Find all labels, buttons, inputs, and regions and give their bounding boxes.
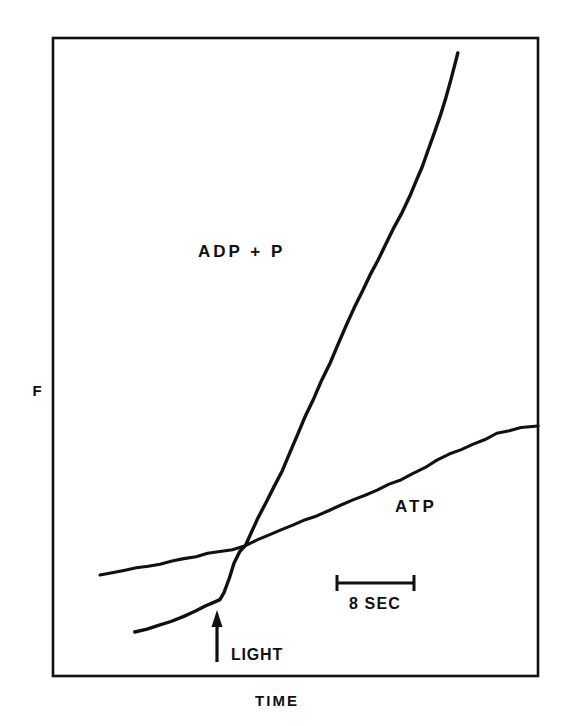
series-label-atp: ATP bbox=[395, 497, 437, 516]
figure-root: J. PHOTOCHEMISTRY OF BACTERIORHODOPSIN F… bbox=[0, 0, 564, 726]
figure-canvas: F TIME ADP + P ATP LIGHT 8 SEC bbox=[0, 0, 564, 726]
figure-background bbox=[0, 0, 564, 726]
light-marker-label: LIGHT bbox=[231, 646, 283, 663]
y-axis-label: F bbox=[32, 382, 43, 399]
series-label-adp-p: ADP + P bbox=[198, 242, 285, 261]
scale-bar-label: 8 SEC bbox=[349, 595, 401, 612]
x-axis-label: TIME bbox=[255, 692, 299, 709]
